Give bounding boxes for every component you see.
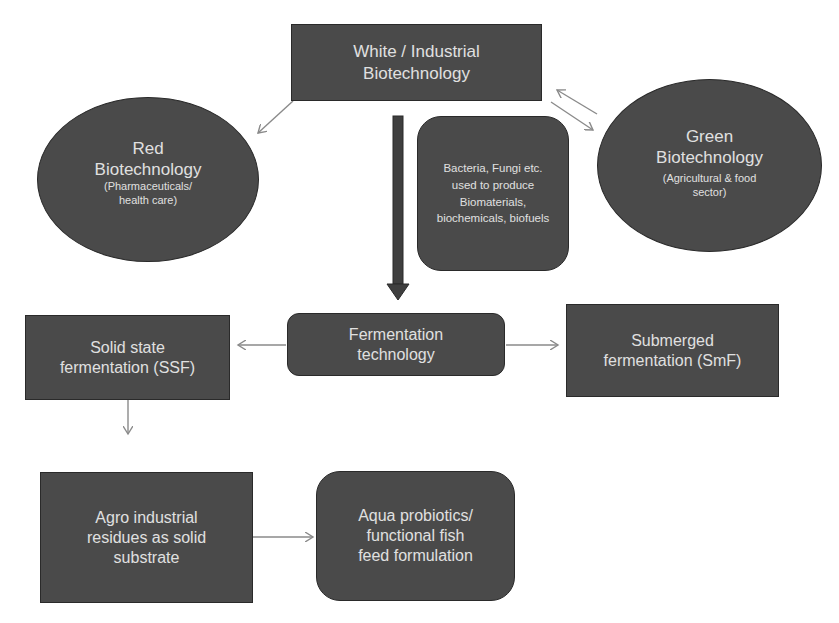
node-white-industrial-biotechnology: White / Industrial Biotechnology: [291, 24, 542, 101]
node-green-biotechnology: Green Biotechnology (Agricultural & food…: [597, 79, 822, 252]
node-text-line: Bacteria, Fungi etc.: [443, 160, 542, 177]
node-text-line: feed formulation: [358, 546, 473, 566]
node-text-line: substrate: [114, 548, 180, 568]
node-note: (Pharmaceuticals/: [104, 180, 192, 194]
node-text-line: fermentation (SmF): [604, 351, 742, 371]
node-note-2: sector): [693, 186, 727, 200]
node-title: White / Industrial: [353, 41, 480, 62]
node-text-line: biochemicals, biofuels: [437, 210, 550, 227]
node-text-line: Fermentation: [349, 325, 443, 345]
node-title: Red: [132, 138, 163, 159]
node-title-2: Biotechnology: [95, 159, 202, 180]
node-microbes-description: Bacteria, Fungi etc. used to produce Bio…: [417, 116, 569, 271]
node-note: (Agricultural & food: [663, 172, 757, 186]
node-text-line: Aqua probiotics/: [358, 506, 473, 526]
node-text-line: Solid state: [90, 338, 165, 358]
node-solid-state-fermentation: Solid state fermentation (SSF): [25, 315, 230, 400]
node-submerged-fermentation: Submerged fermentation (SmF): [566, 304, 779, 397]
node-fermentation-technology: Fermentation technology: [287, 313, 505, 376]
node-text-line: Biomaterials,: [460, 194, 526, 211]
node-note-2: health care): [119, 194, 177, 208]
node-text-line: Agro industrial: [95, 508, 197, 528]
node-red-biotechnology: Red Biotechnology (Pharmaceuticals/ heal…: [37, 97, 259, 262]
node-text-line: functional fish: [367, 526, 465, 546]
arrow-white-to-red: [258, 101, 293, 133]
node-text-line: technology: [357, 345, 434, 365]
node-text-line: fermentation (SSF): [60, 358, 195, 378]
node-text-line: residues as solid: [87, 528, 206, 548]
node-subtitle: Biotechnology: [363, 63, 470, 84]
node-agro-industrial-residues: Agro industrial residues as solid substr…: [40, 472, 253, 603]
thick-arrow-white-to-fermentation: [387, 116, 409, 300]
node-text-line: used to produce: [452, 177, 534, 194]
node-title-2: Biotechnology: [656, 147, 763, 168]
node-aqua-probiotics: Aqua probiotics/ functional fish feed fo…: [316, 471, 515, 601]
node-title: Green: [686, 126, 733, 147]
node-text-line: Submerged: [631, 331, 714, 351]
